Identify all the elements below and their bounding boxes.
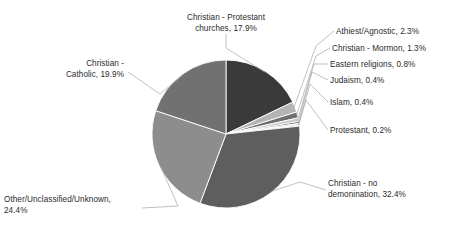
- pie-label-protestant: Protestant, 0.2%: [330, 125, 454, 136]
- pie-label-christian-protestant-churches: Christian - Protestant churches, 17.9%: [165, 12, 287, 35]
- pie-leader-line: [297, 48, 330, 115]
- pie-leader-line: [294, 31, 334, 107]
- pie-label-atheist-agnostic: Athiest/Agnostic, 2.3%: [336, 26, 454, 37]
- pie-label-judaism: Judaism, 0.4%: [330, 75, 454, 86]
- pie-label-islam: Islam, 0.4%: [330, 97, 454, 108]
- pie-label-other-unclassified-unknown: Other/Unclassified/Unknown, 24.4%: [4, 194, 136, 217]
- pie-chart-figure: Christian - Protestant churches, 17.9% C…: [0, 0, 456, 242]
- pie-label-christian-no-denomination: Christian - no demonination, 32.4%: [328, 178, 450, 201]
- pie-label-christian-catholic: Christian - Catholic, 19.9%: [36, 58, 124, 81]
- pie-label-christian-mormon: Christian - Mormon, 1.3%: [332, 43, 454, 54]
- pie-label-eastern-religions: Eastern religions, 0.8%: [330, 59, 454, 70]
